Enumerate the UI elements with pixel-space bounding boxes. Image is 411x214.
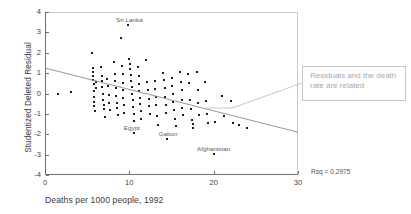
point-label: Afghanistan: [197, 145, 230, 152]
point-label: Sri Lanka: [116, 16, 143, 23]
y-tick-label: 1: [37, 69, 41, 77]
y-tick-label: 0: [37, 90, 41, 98]
annotation-text: Residuals and the death rate are related: [310, 71, 402, 91]
scatter-plot-figure: Studentized Deleted Residual Deaths per …: [0, 0, 411, 214]
y-tick-label: -2: [34, 130, 41, 138]
x-tick-label: 10: [125, 179, 133, 187]
x-tick-label: 0: [43, 179, 47, 187]
regression-line: [45, 12, 298, 175]
x-tick-label: 30: [294, 179, 302, 187]
y-axis-title: Studentized Deleted Residual: [24, 13, 33, 183]
x-tick-label: 20: [209, 179, 217, 187]
x-axis-title: Deaths per 1000 people, 1992: [45, 195, 163, 205]
rsq-statistic: Rsq = 0.2975: [311, 168, 350, 175]
y-tick-label: 3: [37, 29, 41, 37]
plot-area: -4-3-2-101234 0102030 Sri LankaEgyptGabo…: [45, 12, 298, 175]
y-tick-label: -3: [34, 151, 41, 159]
point-label: Gabon: [159, 130, 178, 137]
y-tick-label: 2: [37, 49, 41, 57]
y-tick-mark: [46, 175, 49, 176]
y-tick-label: -4: [34, 171, 41, 179]
y-tick-label: 4: [37, 8, 41, 16]
annotation-box: Residuals and the death rate are related: [302, 66, 406, 101]
x-tick-mark: [298, 171, 299, 174]
point-label: Egypt: [124, 124, 140, 131]
y-tick-label: -1: [34, 110, 41, 118]
